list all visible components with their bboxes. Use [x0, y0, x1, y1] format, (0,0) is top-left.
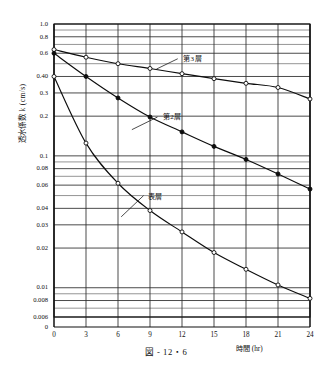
data-point-marker [116, 181, 120, 185]
data-point-marker [180, 72, 184, 76]
data-point-marker [116, 96, 120, 100]
data-point-marker [148, 66, 152, 70]
figure-caption: 図 - 12・6 [0, 345, 332, 357]
y-tick-label: 1.0 [22, 21, 48, 28]
data-point-marker [308, 97, 312, 101]
x-tick-label: 15 [204, 331, 224, 339]
series-annotation: 第3層 [183, 53, 202, 63]
y-tick-label: 0.02 [22, 245, 48, 252]
data-point-marker [308, 187, 312, 191]
data-point-marker [52, 74, 56, 78]
x-tick-label: 24 [300, 331, 320, 339]
y-tick-label: 0.8 [22, 34, 48, 41]
data-point-marker [276, 85, 280, 89]
data-point-marker [180, 230, 184, 234]
y-tick-label: 0.08 [22, 165, 48, 172]
y-tick-label: 0.03 [22, 222, 48, 229]
data-point-marker [276, 283, 280, 287]
annotation-leader-line [121, 196, 143, 217]
data-point-marker [148, 209, 152, 213]
y-tick-label: 0.008 [22, 297, 48, 304]
annotation-leader-line [132, 117, 158, 130]
data-point-marker [212, 251, 216, 255]
data-point-marker [116, 62, 120, 66]
figure-root: 透水係数 k (cm/s) 時間 (hr) 図 - 12・6 1.00.80.6… [0, 0, 332, 371]
series-annotation: 第2層 [163, 111, 182, 121]
data-point-marker [212, 144, 216, 148]
y-tick-label: 0.01 [22, 284, 48, 291]
data-point-marker [244, 81, 248, 85]
x-tick-label: 18 [236, 331, 256, 339]
data-point-marker [244, 267, 248, 271]
series-annotation: 表層 [148, 191, 163, 201]
data-point-marker [180, 130, 184, 134]
y-tick-label: 0.40 [22, 73, 48, 80]
x-tick-label: 21 [268, 331, 288, 339]
y-tick-label: 0.1 [22, 153, 48, 160]
y-tick-label: 0.04 [22, 205, 48, 212]
data-point-marker [84, 74, 88, 78]
x-tick-label: 6 [108, 331, 128, 339]
permeability-log-chart [0, 0, 332, 371]
y-tick-label: 0.06 [22, 182, 48, 189]
x-tick-label: 0 [44, 331, 64, 339]
data-point-marker [84, 55, 88, 59]
y-tick-label: 0.006 [22, 314, 48, 321]
data-point-marker [84, 141, 88, 145]
y-origin-label: 0 [22, 324, 48, 331]
y-tick-label: 0.6 [22, 50, 48, 57]
y-tick-label: 0.2 [22, 113, 48, 120]
data-point-marker [308, 296, 312, 300]
data-point-marker [148, 115, 152, 119]
data-point-marker [276, 172, 280, 176]
x-tick-label: 9 [140, 331, 160, 339]
data-point-marker [52, 51, 56, 55]
data-point-marker [244, 157, 248, 161]
x-tick-label: 3 [76, 331, 96, 339]
x-tick-label: 12 [172, 331, 192, 339]
data-point-marker [212, 77, 216, 81]
y-tick-label: 0.3 [22, 90, 48, 97]
